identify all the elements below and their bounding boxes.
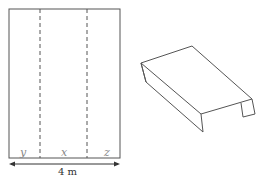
diagram-svg (0, 0, 266, 180)
sheet-outline (9, 9, 120, 158)
diagram: y x z 4 m (0, 0, 266, 180)
folded-channel (141, 46, 255, 132)
arrowhead-right-icon (114, 162, 120, 167)
channel-right-flap-edge (252, 99, 255, 114)
arrowhead-left-icon (9, 162, 15, 167)
section-label-z: z (104, 146, 110, 159)
section-label-x: x (61, 146, 67, 159)
width-label: 4 m (58, 166, 77, 177)
section-label-y: y (20, 146, 26, 159)
channel-top-face (141, 46, 252, 114)
flat-sheet (9, 9, 120, 158)
